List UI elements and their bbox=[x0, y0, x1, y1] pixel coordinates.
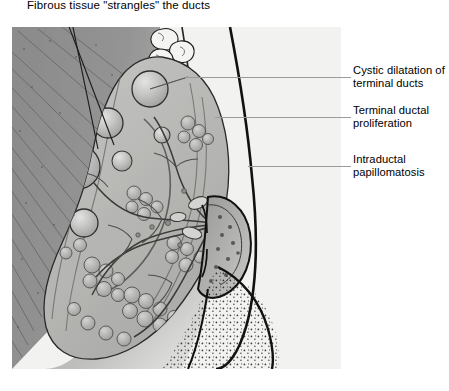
label-intraductal-papillomatosis: Intraductal papillomatosis bbox=[353, 153, 425, 180]
figure-title: Fibrous tissue "strangles" the ducts bbox=[27, 0, 210, 11]
breast-cross-section-illustration bbox=[12, 27, 341, 369]
cyst bbox=[112, 151, 132, 171]
label-cystic-dilatation: Cystic dilatation of terminal ducts bbox=[353, 64, 445, 91]
figure-root: Fibrous tissue "strangles" the ducts bbox=[0, 0, 449, 391]
illustration-svg bbox=[12, 27, 341, 369]
label-terminal-ductal-proliferation: Terminal ductal proliferation bbox=[353, 104, 429, 131]
leader-line-cystic-dilatation bbox=[185, 77, 351, 78]
leader-line-terminal-ductal-proliferation bbox=[215, 117, 351, 118]
leader-line-intraductal-papillomatosis bbox=[248, 166, 351, 167]
